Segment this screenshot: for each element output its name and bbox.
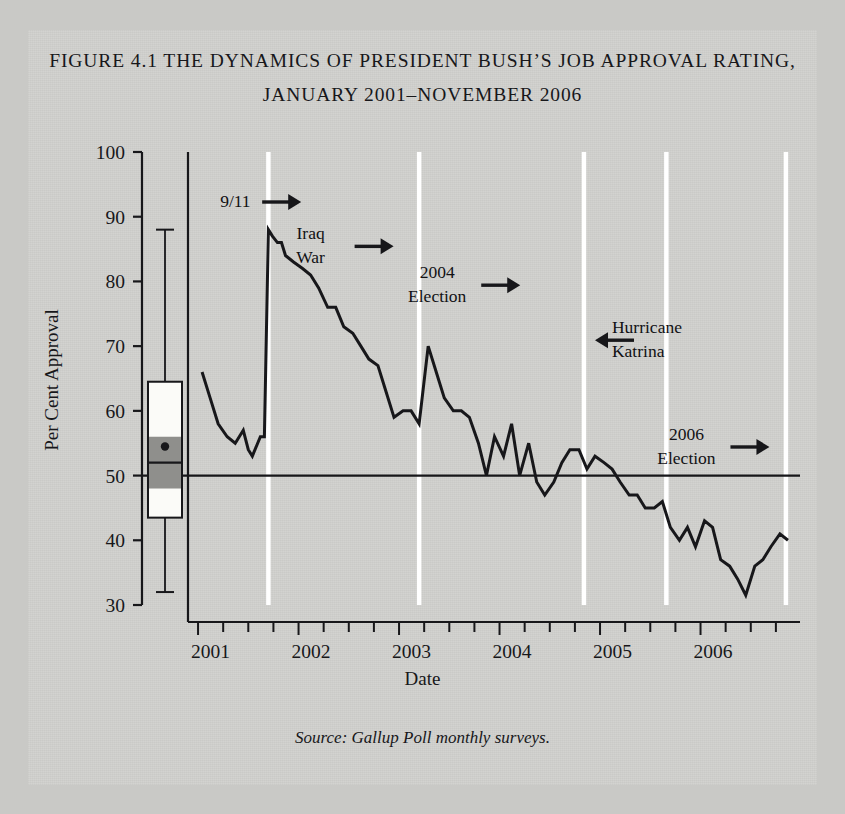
annotation-iraq-war-line-0: Iraq [297,223,325,243]
y-tick-label-30: 30 [106,595,126,616]
x-tick-label-2001: 2001 [191,641,230,662]
annotation-iraq-war-line-1: War [296,247,325,267]
y-tick-label-80: 80 [106,271,126,292]
y-axis-title-text: Per Cent Approval [41,309,62,450]
y-tick-label-100: 100 [96,142,125,163]
x-tick-label-2003: 2003 [392,641,431,662]
annotation-iraq-war-arrow-head [381,238,394,254]
event-annotations: 9/11IraqWar2004ElectionHurricaneKatrina2… [220,191,769,468]
y-tick-label-90: 90 [106,207,126,228]
annotation-2004-election-arrow-head [507,277,520,293]
annotation-9-11-arrow-head [288,194,301,210]
annotation-2006-election-line-0: 2006 [669,424,704,444]
boxplot-mean-dot [161,442,169,450]
approval-line-chart: 3040506070809010020012002200320042005200… [0,0,845,814]
x-axis-title: Date [0,668,845,690]
approval-distribution-boxplot [148,230,182,592]
source-note: Source: Gallup Poll monthly surveys. [0,728,845,748]
annotation-2004-election-line-0: 2004 [420,262,455,282]
x-tick-label-2002: 2002 [292,641,331,662]
annotation-hurricane-katrina-line-1: Katrina [612,341,665,361]
x-tick-label-2005: 2005 [593,641,632,662]
annotation-hurricane-katrina-line-0: Hurricane [612,317,682,337]
y-tick-label-40: 40 [106,530,126,551]
x-tick-label-2004: 2004 [493,641,532,662]
axis-tick-labels: 3040506070809010020012002200320042005200… [96,142,733,662]
y-tick-label-50: 50 [106,466,126,487]
annotation-2004-election-line-1: Election [408,286,467,306]
annotation-2006-election-arrow-head [756,439,769,455]
figure-page: FIGURE 4.1 THE DYNAMICS OF PRESIDENT BUS… [0,0,845,814]
event-gridlines [268,152,786,605]
y-tick-label-70: 70 [106,336,126,357]
y-axis-title: Per Cent Approval [41,309,62,450]
annotation-9-11-line-0: 9/11 [220,191,250,211]
annotation-hurricane-katrina-arrow-head [595,332,608,348]
chart-axes [133,152,800,635]
y-tick-label-60: 60 [106,401,126,422]
annotation-2006-election-line-1: Election [657,448,716,468]
x-tick-label-2006: 2006 [694,641,733,662]
